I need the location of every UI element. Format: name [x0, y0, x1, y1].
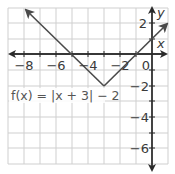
y-tick-label: −2 [130, 79, 149, 94]
y-tick-label: 2 [139, 16, 147, 31]
x-tick-label: −6 [46, 58, 65, 73]
graph-canvas: −8 −6 −4 −2 0 2 −2 −4 −6 x y f(x) = |x +… [0, 0, 175, 174]
function-label: f(x) = |x + 3| − 2 [11, 88, 120, 103]
y-tick-label: −4 [130, 110, 149, 125]
y-axis [149, 8, 155, 170]
x-axis [10, 51, 166, 57]
x-tick-label: −4 [78, 58, 97, 73]
origin-label: 0 [142, 58, 150, 73]
x-tick-label: −2 [110, 58, 129, 73]
x-axis-label: x [156, 36, 165, 51]
y-axis-label: y [156, 5, 165, 20]
x-tick-label: −8 [14, 58, 33, 73]
y-tick-label: −6 [130, 141, 149, 156]
